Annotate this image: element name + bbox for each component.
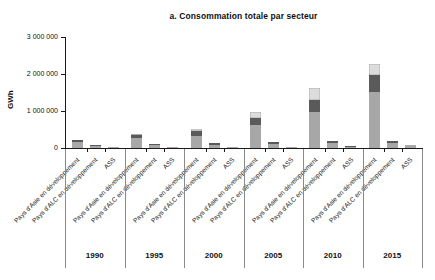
stacked-bar bbox=[149, 144, 160, 148]
bar-segment bbox=[309, 100, 320, 112]
bar-segment bbox=[131, 138, 142, 148]
bar-label: Pays d'ALC en développement bbox=[239, 156, 336, 253]
year-label: 2010 bbox=[303, 251, 363, 260]
year-label: 1990 bbox=[65, 251, 125, 260]
bar-segment bbox=[108, 147, 119, 148]
stacked-bar bbox=[191, 129, 202, 148]
x-tick-mark bbox=[402, 149, 403, 152]
y-tick-label: 3 000 000 bbox=[0, 33, 58, 40]
x-tick-mark bbox=[265, 149, 266, 152]
bar-label: Pays d'ALC en développement bbox=[1, 156, 98, 253]
bar-label: Pays d'ALC en développement bbox=[299, 156, 396, 253]
stacked-bar bbox=[268, 142, 279, 148]
chart-title: a. Consommation totale par secteur bbox=[65, 11, 422, 21]
bar-segment bbox=[72, 142, 83, 148]
year-group bbox=[363, 37, 422, 148]
x-tick-mark bbox=[87, 149, 88, 152]
stacked-bar bbox=[90, 145, 101, 148]
y-tick-label: 2 000 000 bbox=[0, 70, 58, 77]
stacked-bar bbox=[327, 141, 338, 148]
y-tick-label: 0 bbox=[0, 144, 58, 151]
bar-groups bbox=[66, 37, 422, 148]
year-label: 1995 bbox=[125, 251, 185, 260]
bar-segment bbox=[387, 143, 398, 148]
bar-segment bbox=[167, 147, 178, 148]
stacked-bar bbox=[309, 88, 320, 148]
stacked-bar bbox=[369, 64, 380, 148]
x-tick-mark bbox=[343, 149, 344, 152]
stacked-bar bbox=[286, 147, 297, 148]
x-tick-mark bbox=[206, 149, 207, 152]
y-tick-mark bbox=[61, 37, 65, 38]
bar-segment bbox=[250, 118, 261, 125]
bar-segment bbox=[286, 147, 297, 148]
stacked-bar bbox=[72, 140, 83, 148]
bar-segment bbox=[191, 136, 202, 148]
stacked-bar bbox=[405, 145, 416, 148]
stacked-bar bbox=[250, 112, 261, 148]
bar-label: Pays d'ALC en développement bbox=[120, 156, 217, 253]
x-tick-mark bbox=[146, 149, 147, 152]
stacked-bar bbox=[131, 134, 142, 148]
bar-segment bbox=[250, 125, 261, 148]
bar-segment bbox=[405, 146, 416, 148]
bar-segment bbox=[369, 92, 380, 148]
figure-panel: a. Consommation totale par secteur GWh 3… bbox=[0, 0, 435, 280]
bar-segment bbox=[369, 75, 380, 92]
year-label: 2005 bbox=[244, 251, 304, 260]
y-tick-mark bbox=[61, 74, 65, 75]
bar-label: Pays d'ALC en développement bbox=[180, 156, 277, 253]
y-axis-label: GWh bbox=[6, 75, 15, 125]
year-group bbox=[185, 37, 244, 148]
y-tick-mark bbox=[61, 111, 65, 112]
year-group bbox=[125, 37, 184, 148]
bar-segment bbox=[227, 147, 238, 148]
bar-segment bbox=[209, 145, 220, 149]
bar-label: Pays d'ALC en développement bbox=[61, 156, 158, 253]
stacked-bar bbox=[209, 143, 220, 148]
group-separator bbox=[422, 149, 423, 268]
bar-segment bbox=[327, 143, 338, 148]
stacked-bar bbox=[167, 147, 178, 148]
year-group bbox=[244, 37, 303, 148]
x-tick-mark bbox=[224, 149, 225, 152]
stacked-bar bbox=[387, 141, 398, 148]
bar-segment bbox=[90, 146, 101, 148]
x-tick-mark bbox=[105, 149, 106, 152]
stacked-bar bbox=[108, 147, 119, 148]
x-tick-mark bbox=[164, 149, 165, 152]
stacked-bar bbox=[227, 147, 238, 148]
bar-segment bbox=[309, 112, 320, 148]
x-tick-mark bbox=[384, 149, 385, 152]
bar-segment bbox=[369, 64, 380, 75]
bar-segment bbox=[345, 147, 356, 148]
x-tick-mark bbox=[283, 149, 284, 152]
year-label: 2000 bbox=[184, 251, 244, 260]
year-group bbox=[303, 37, 362, 148]
bar-segment bbox=[309, 88, 320, 99]
y-tick-label: 1 000 000 bbox=[0, 107, 58, 114]
stacked-bar bbox=[345, 146, 356, 148]
year-label: 2015 bbox=[363, 251, 423, 260]
year-group bbox=[66, 37, 125, 148]
x-tick-mark bbox=[325, 149, 326, 152]
bar-segment bbox=[149, 145, 160, 148]
bar-segment bbox=[268, 144, 279, 148]
